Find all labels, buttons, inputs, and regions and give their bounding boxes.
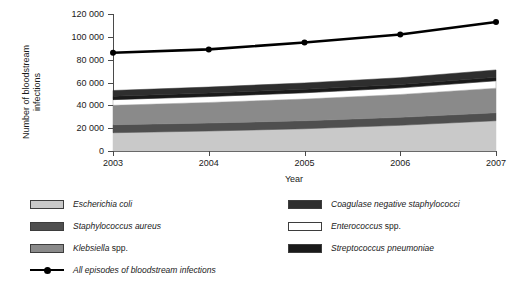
x-tick-mark bbox=[400, 151, 401, 156]
legend-label: Coagulase negative staphylococci bbox=[331, 199, 460, 209]
legend-item: Escherichia coli bbox=[30, 193, 161, 215]
legend-label: Staphylococcus aureus bbox=[73, 221, 161, 231]
legend-item: Staphylococcus aureus bbox=[30, 215, 161, 237]
legend-item: Coagulase negative staphylococci bbox=[288, 193, 460, 215]
legend-item: Klebsiella spp. bbox=[30, 237, 161, 259]
line-data-point bbox=[302, 40, 308, 46]
legend-line-marker-icon bbox=[30, 265, 64, 275]
bloodstream-infections-chart: Number of bloodstream infections 020 000… bbox=[0, 0, 528, 296]
x-axis-title-text: Year bbox=[285, 174, 303, 184]
legend-column-left: Escherichia coliStaphylococcus aureusKle… bbox=[30, 193, 161, 259]
legend-swatch bbox=[30, 222, 64, 231]
x-tick-mark bbox=[209, 151, 210, 156]
y-tick-mark bbox=[108, 60, 113, 61]
stacked-area-svg bbox=[0, 0, 528, 190]
x-tick-label: 2005 bbox=[294, 158, 314, 168]
legend-swatch bbox=[288, 200, 322, 209]
legend-swatch bbox=[288, 244, 322, 253]
legend-label: Klebsiella spp. bbox=[73, 243, 128, 253]
y-tick-mark bbox=[108, 83, 113, 84]
x-tick-label: 2004 bbox=[199, 158, 219, 168]
chart-legend: Escherichia coliStaphylococcus aureusKle… bbox=[0, 193, 528, 296]
legend-label-all-episodes: All episodes of bloodstream infections bbox=[73, 265, 216, 275]
x-tick-mark bbox=[113, 151, 114, 156]
line-data-point bbox=[110, 50, 116, 56]
y-tick-mark bbox=[108, 128, 113, 129]
legend-swatch bbox=[30, 244, 64, 253]
x-tick-label: 2003 bbox=[103, 158, 123, 168]
x-axis-title: Year bbox=[0, 174, 528, 184]
x-tick-label: 2006 bbox=[390, 158, 410, 168]
legend-item-all-episodes: All episodes of bloodstream infections bbox=[30, 259, 216, 281]
legend-column-right: Coagulase negative staphylococciEnteroco… bbox=[288, 193, 460, 259]
legend-swatch bbox=[288, 222, 322, 231]
legend-swatch bbox=[30, 200, 64, 209]
line-data-point bbox=[206, 46, 212, 52]
y-tick-mark bbox=[108, 105, 113, 106]
legend-label: Escherichia coli bbox=[73, 199, 132, 209]
x-tick-mark bbox=[305, 151, 306, 156]
legend-item: Streptococcus pneumoniae bbox=[288, 237, 460, 259]
all-episodes-line bbox=[113, 22, 496, 53]
legend-item: Enterococcus spp. bbox=[288, 215, 460, 237]
x-tick-label: 2007 bbox=[486, 158, 506, 168]
plot-area: Number of bloodstream infections 020 000… bbox=[0, 0, 528, 190]
line-data-point bbox=[397, 32, 403, 38]
y-tick-mark bbox=[108, 37, 113, 38]
legend-label: Streptococcus pneumoniae bbox=[331, 243, 434, 253]
legend-label: Enterococcus spp. bbox=[331, 221, 401, 231]
x-tick-mark bbox=[496, 151, 497, 156]
y-tick-mark bbox=[108, 14, 113, 15]
line-data-point bbox=[493, 19, 499, 25]
